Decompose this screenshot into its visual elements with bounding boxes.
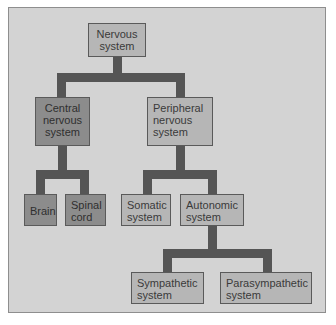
connector-root-bar: [57, 73, 185, 82]
connector-root-left-leg: [57, 73, 66, 98]
node-central-nervous-system: Central nervous system: [35, 97, 90, 146]
connector-autonomic-stem: [208, 225, 217, 252]
node-label: Brain: [30, 205, 51, 217]
node-label: Autonomic system: [186, 199, 238, 223]
node-parasympathetic-system: Parasympathetic system: [220, 272, 312, 304]
node-peripheral-nervous-system: Peripheral nervous system: [147, 97, 213, 146]
node-label: Sympathetic system: [137, 277, 198, 301]
node-label: Spinal cord: [71, 199, 100, 223]
connector-peripheral-right-leg: [208, 170, 217, 195]
node-nervous-system: Nervous system: [88, 23, 146, 57]
node-somatic-system: Somatic system: [121, 194, 171, 226]
node-spinal-cord: Spinal cord: [65, 194, 106, 226]
node-label: Central nervous system: [41, 102, 84, 138]
node-sympathetic-system: Sympathetic system: [131, 272, 204, 304]
connector-autonomic-right-leg: [263, 249, 272, 273]
connector-central-right-leg: [80, 170, 89, 195]
connector-central-left-leg: [36, 170, 45, 195]
node-label: Somatic system: [127, 199, 165, 223]
connector-peripheral-bar: [143, 170, 217, 179]
connector-autonomic-bar: [163, 249, 272, 258]
connector-peripheral-left-leg: [143, 170, 152, 195]
connector-central-stem: [58, 145, 67, 173]
node-label: Nervous system: [94, 28, 140, 52]
node-brain: Brain: [24, 194, 57, 226]
node-autonomic-system: Autonomic system: [180, 194, 244, 226]
node-label: Peripheral nervous system: [153, 102, 207, 138]
node-label: Parasympathetic system: [226, 277, 306, 301]
connector-autonomic-left-leg: [163, 249, 172, 273]
connector-root-right-leg: [176, 73, 185, 98]
connector-peripheral-stem: [176, 145, 185, 173]
